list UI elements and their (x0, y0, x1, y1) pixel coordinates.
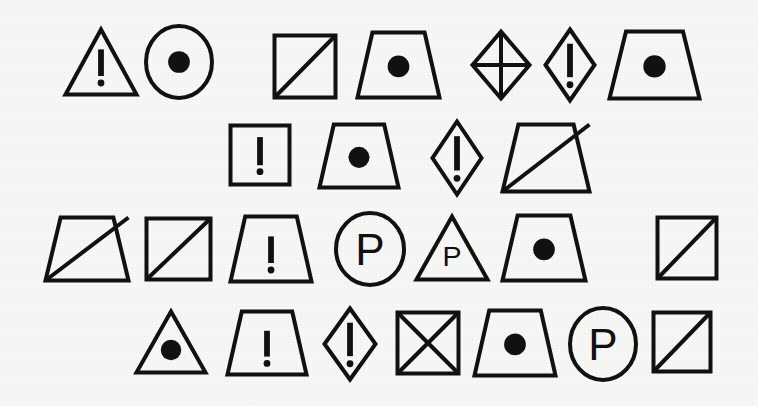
symbol-circle-letter-P-icon: P (334, 211, 406, 287)
symbol-square-x-cross-icon (395, 310, 461, 376)
symbol-square-exclamation-icon (228, 123, 292, 187)
symbol-square-diagonal-up-icon (651, 310, 713, 374)
symbol-triangle-exclamation-icon (63, 27, 139, 97)
svg-text:P: P (355, 225, 384, 274)
symbol-trapezoid-dot-icon (607, 29, 702, 101)
symbol-circle-letter-P-icon: P (568, 306, 638, 382)
symbol-trapezoid-dot-icon (317, 122, 401, 190)
symbol-sheet: PPP (0, 0, 758, 406)
symbol-circle-dot-icon (144, 24, 214, 100)
symbol-diamond-cross-icon (470, 29, 532, 101)
symbol-trapezoid-dot-icon (500, 213, 588, 283)
symbol-diamond-exclamation-icon (543, 27, 597, 103)
symbol-trapezoid-dot-icon (472, 308, 558, 378)
symbol-triangle-letter-P-icon: P (414, 214, 490, 282)
symbol-square-diagonal-up-icon (655, 215, 719, 281)
symbol-trapezoid-diagonal-up-icon (43, 215, 131, 283)
svg-text:P: P (588, 320, 617, 369)
symbol-diamond-exclamation-icon (430, 119, 484, 197)
symbol-trapezoid-exclamation-icon (225, 309, 309, 377)
svg-text:P: P (442, 240, 461, 272)
symbol-trapezoid-dot-icon (355, 30, 442, 100)
symbol-square-diagonal-up-icon (272, 33, 338, 100)
symbol-square-diagonal-up-icon (144, 216, 213, 282)
symbol-trapezoid-diagonal-up-icon (500, 122, 592, 194)
symbol-diamond-exclamation-icon (322, 306, 378, 382)
symbol-trapezoid-exclamation-icon (228, 214, 314, 284)
symbol-triangle-dot-icon (134, 309, 208, 375)
